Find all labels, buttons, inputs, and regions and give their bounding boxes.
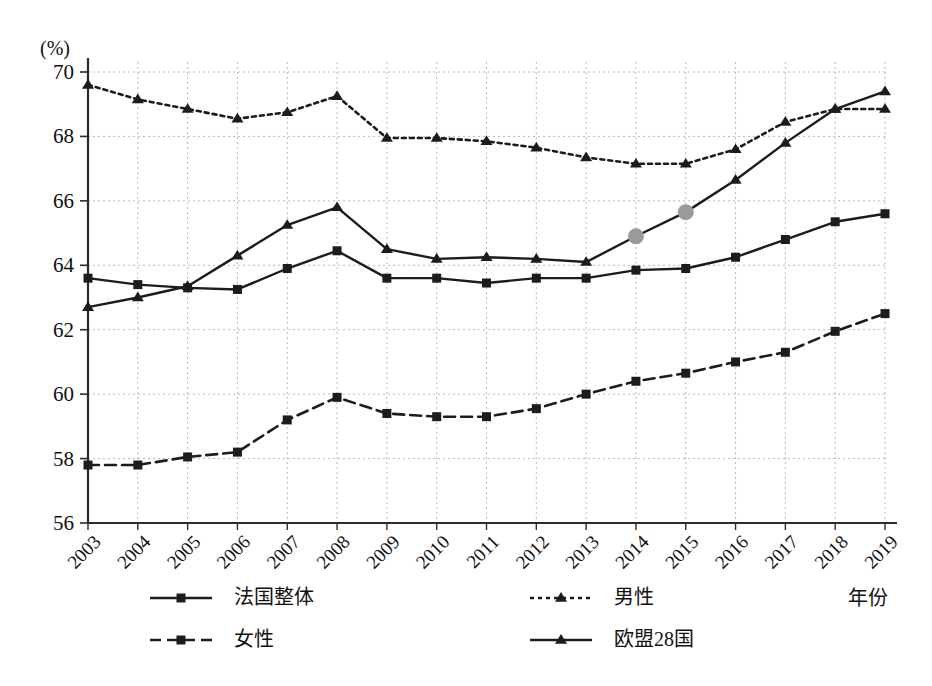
data-point-marker [84, 274, 93, 283]
data-point-marker [133, 461, 142, 470]
x-tick-label: 2009 [362, 531, 404, 573]
legend-label: 欧盟28国 [614, 628, 694, 650]
data-point-marker [532, 274, 541, 283]
x-tick-label: 2012 [511, 531, 553, 573]
x-tick-label: 2014 [611, 531, 653, 573]
x-tick-label: 2018 [810, 531, 852, 573]
legend-label: 男性 [614, 586, 654, 608]
data-point-marker [84, 461, 93, 470]
data-point-marker [432, 412, 441, 421]
y-tick-label: 60 [53, 382, 74, 406]
data-point-marker [331, 201, 343, 211]
data-point-marker [580, 151, 592, 161]
data-point-marker [432, 274, 441, 283]
data-point-marker [582, 274, 591, 283]
x-tick-label: 2019 [860, 531, 902, 573]
highlighted-data-point [678, 204, 694, 220]
x-tick-label: 2007 [262, 531, 304, 573]
data-point-marker [731, 357, 740, 366]
x-tick-label: 2011 [462, 531, 503, 572]
data-point-marker [730, 143, 742, 153]
y-tick-label: 70 [53, 60, 74, 84]
data-point-marker [283, 264, 292, 273]
data-point-marker [333, 246, 342, 255]
y-axis-unit-label: (%) [40, 37, 70, 60]
data-point-marker [82, 79, 94, 89]
y-tick-label: 56 [53, 511, 74, 535]
x-tick-label: 2017 [760, 531, 802, 573]
x-tick-label: 2006 [213, 531, 255, 573]
series-group [82, 79, 891, 470]
highlighted-data-point [628, 228, 644, 244]
data-point-marker [631, 266, 640, 275]
x-tick-label: 2013 [561, 531, 603, 573]
data-point-marker [881, 209, 890, 218]
legend-item[interactable]: 欧盟28国 [530, 628, 694, 650]
data-point-marker [183, 452, 192, 461]
data-point-marker [781, 348, 790, 357]
legend-marker [177, 636, 186, 645]
data-point-marker [133, 280, 142, 289]
y-tick-label: 62 [53, 318, 74, 342]
data-point-marker [431, 132, 443, 142]
data-point-marker [532, 404, 541, 413]
legend-item[interactable]: 法国整体 [150, 586, 314, 608]
x-tick-label: 2010 [412, 531, 454, 573]
legend-label: 女性 [234, 628, 274, 650]
data-point-marker [231, 250, 243, 260]
data-point-marker [382, 274, 391, 283]
data-point-marker [831, 217, 840, 226]
data-point-marker [779, 137, 791, 147]
x-tick-label: 2015 [661, 531, 703, 573]
x-tick-label: 2016 [711, 531, 753, 573]
data-point-marker [631, 377, 640, 386]
data-point-marker [382, 409, 391, 418]
data-point-marker [681, 264, 690, 273]
data-point-marker [831, 327, 840, 336]
x-tick-label: 2003 [63, 531, 105, 573]
x-tick-label: 2004 [113, 531, 155, 573]
y-axis-ticks: 5658606264666870 [53, 60, 88, 535]
x-axis-ticks: 2003200420052006200720082009201020112012… [63, 523, 902, 573]
x-axis-title: 年份 [848, 587, 888, 609]
data-point-marker [482, 412, 491, 421]
legend-marker [177, 594, 186, 603]
data-point-marker [233, 448, 242, 457]
data-point-marker [681, 369, 690, 378]
legend-label: 法国整体 [234, 586, 314, 608]
chart-page: 5658606264666870(%)200320042005200620072… [0, 0, 932, 686]
data-point-marker [482, 279, 491, 288]
y-tick-label: 66 [53, 189, 74, 213]
y-tick-label: 68 [53, 124, 74, 148]
data-point-marker [233, 285, 242, 294]
data-point-marker [731, 253, 740, 262]
x-tick-label: 2008 [312, 531, 354, 573]
data-point-marker [781, 235, 790, 244]
legend-item[interactable]: 男性 [530, 586, 654, 608]
x-tick-label: 2005 [163, 531, 205, 573]
data-point-marker [582, 390, 591, 399]
data-point-marker [879, 85, 891, 95]
legend: 法国整体男性女性欧盟28国 [150, 586, 694, 650]
data-point-marker [881, 309, 890, 318]
series-line [88, 85, 885, 164]
data-point-marker [333, 393, 342, 402]
legend-item[interactable]: 女性 [150, 628, 274, 650]
y-tick-label: 64 [53, 253, 75, 277]
data-point-marker [331, 90, 343, 100]
y-tick-label: 58 [53, 447, 74, 471]
data-point-marker [283, 415, 292, 424]
line-chart: 5658606264666870(%)200320042005200620072… [0, 0, 932, 686]
